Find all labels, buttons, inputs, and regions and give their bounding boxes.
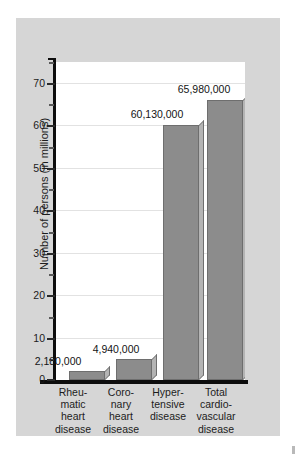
y-axis-line <box>53 58 56 384</box>
bar-front-face <box>69 371 105 380</box>
y-tick-minor-15 <box>49 317 54 319</box>
category-label-total-cardiovascular-disease: Total cardio- vascular disease <box>186 386 246 435</box>
bar-value-label-rheumatic: 2,180,000 <box>26 355 90 367</box>
bar-side-face <box>152 354 157 380</box>
category-line: vascular <box>186 410 246 422</box>
y-axis-title: Number of persons (in millions) <box>38 84 50 304</box>
chart-figure: 70 60 50 40 30 20 10 0 Number of persons… <box>0 0 299 458</box>
bar-front-face <box>207 100 243 380</box>
category-label-rheumatic-heart-disease: Rheu- matic heart disease <box>46 386 100 435</box>
bar-coronary-heart-disease <box>116 359 152 380</box>
bar-value-label-coronary: 4,940,000 <box>84 343 148 355</box>
bar-side-face <box>105 366 110 380</box>
category-line: matic <box>46 398 100 410</box>
bar-side-face <box>243 95 245 380</box>
bar-hypertensive-disease <box>163 125 199 380</box>
bar-front-face <box>116 359 152 380</box>
category-line: cardio- <box>186 398 246 410</box>
bar-total-cardiovascular-disease <box>207 100 243 380</box>
bar-side-face <box>199 120 204 380</box>
category-line: Total <box>186 386 246 398</box>
category-line: disease <box>94 423 148 435</box>
y-tick-0 <box>47 379 55 381</box>
bar-front-face <box>163 125 199 380</box>
y-tick-10 <box>47 338 55 340</box>
category-line: disease <box>186 423 246 435</box>
y-tick-minor-75 <box>49 62 54 64</box>
bar-rheumatic-heart-disease <box>69 371 105 380</box>
category-line: disease <box>46 423 100 435</box>
y-tick-label-10: 10 <box>19 333 45 344</box>
x-axis-line <box>40 380 248 384</box>
category-line: heart <box>46 410 100 422</box>
bar-value-label-total-cv: 65,980,000 <box>166 83 242 95</box>
bar-value-label-hypertensive: 60,130,000 <box>119 108 195 120</box>
y-tick-label-0: 0 <box>19 374 45 385</box>
category-line: Rheu- <box>46 386 100 398</box>
scan-artifact <box>292 446 295 454</box>
